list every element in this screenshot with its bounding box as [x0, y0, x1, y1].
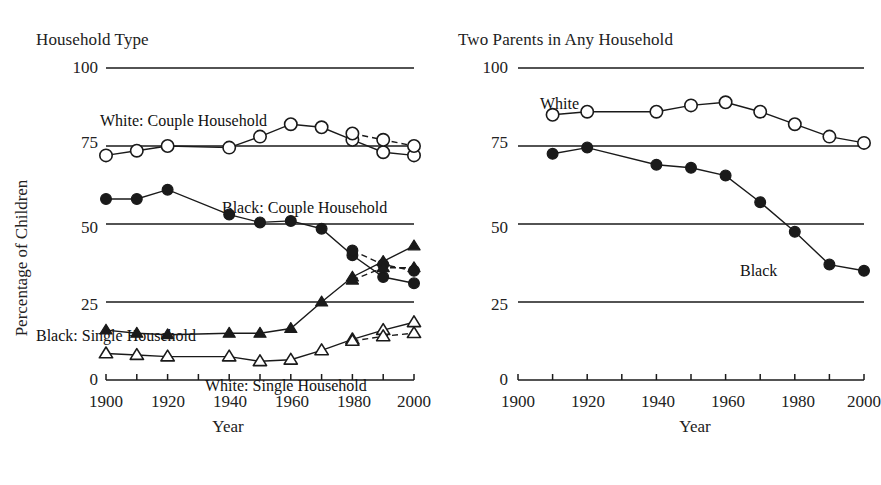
data-point	[581, 106, 593, 118]
data-point	[408, 240, 420, 250]
data-point	[407, 327, 420, 338]
data-point	[377, 134, 389, 146]
data-point	[162, 184, 173, 195]
data-point	[859, 265, 870, 276]
series-line-4	[106, 246, 414, 335]
data-point	[824, 259, 835, 270]
data-point	[582, 142, 593, 153]
data-point	[162, 329, 174, 339]
chart-panel-two-parents: Two Parents in Any Household Year 100 75…	[450, 0, 875, 485]
data-point	[161, 140, 173, 152]
data-point	[547, 148, 558, 159]
data-point	[99, 347, 112, 358]
data-point	[378, 272, 389, 283]
data-point	[789, 118, 801, 130]
plot-area-right	[450, 0, 875, 485]
chart-panel-household-type: Household Type Percentage of Children Ye…	[0, 0, 450, 485]
data-point	[285, 118, 297, 130]
data-point	[546, 109, 558, 121]
plot-area-left	[0, 0, 450, 485]
data-point	[408, 140, 420, 152]
data-point	[285, 216, 296, 227]
data-point	[650, 106, 662, 118]
data-point	[254, 130, 266, 142]
data-point	[347, 245, 358, 256]
data-point	[130, 349, 143, 360]
data-point	[755, 197, 766, 208]
data-point	[789, 226, 800, 237]
data-point	[100, 149, 112, 161]
data-point	[316, 296, 328, 306]
data-point	[223, 141, 235, 153]
data-point	[223, 350, 236, 361]
data-point	[346, 127, 358, 139]
data-point	[651, 159, 662, 170]
data-point	[223, 327, 235, 337]
data-point	[409, 278, 420, 289]
data-point	[101, 194, 112, 205]
data-point	[377, 146, 389, 158]
data-point	[858, 137, 870, 149]
data-point	[720, 170, 731, 181]
series-line-1	[553, 148, 864, 271]
series-line-0	[553, 102, 864, 143]
data-point	[161, 350, 174, 361]
data-point	[407, 316, 420, 327]
data-point	[823, 130, 835, 142]
data-point	[100, 324, 112, 334]
data-point	[224, 209, 235, 220]
data-point	[255, 217, 266, 228]
data-point	[316, 223, 327, 234]
data-point	[754, 106, 766, 118]
data-point	[686, 162, 697, 173]
data-point	[131, 145, 143, 157]
data-point	[131, 194, 142, 205]
data-point	[315, 121, 327, 133]
data-point	[685, 99, 697, 111]
data-point	[719, 96, 731, 108]
